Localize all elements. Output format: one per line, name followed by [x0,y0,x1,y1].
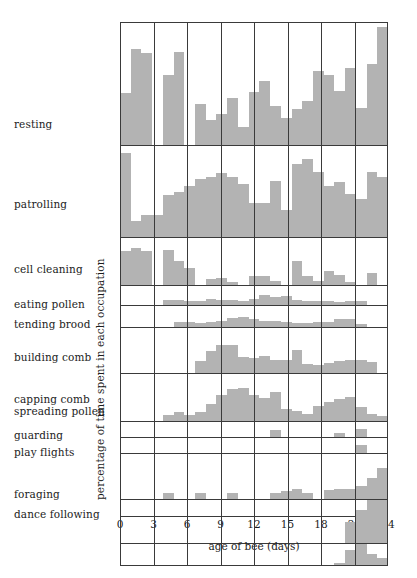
bar [302,364,313,373]
bar [184,186,195,237]
bar [281,118,292,145]
bar [174,412,185,421]
panel-play-flights [120,454,388,500]
bar [259,321,270,327]
bar [292,109,303,145]
bar [227,282,238,285]
bar [324,402,335,421]
bar [195,104,206,145]
bar [195,493,206,499]
bar [206,404,217,421]
bars-play-flights [120,454,388,499]
bar [206,322,217,327]
bar [238,388,249,421]
bar [377,27,388,145]
row-label-spreading-pollen: spreading pollen [0,406,96,417]
bar [206,351,217,374]
bars-capping-comb [120,374,388,421]
bar [259,203,270,237]
bar [206,120,217,145]
row-label-guarding: guarding [0,430,96,441]
bar [313,365,324,373]
bar [367,478,378,499]
bar [345,319,356,327]
bar [249,92,260,145]
bar [334,302,345,305]
bar [356,301,367,305]
panel-spreading-pollen [120,422,388,438]
bar [324,75,335,145]
bar [281,322,292,327]
bar [334,489,345,499]
bar [216,278,227,286]
bar [249,276,260,285]
row-label-cell-cleaning: cell cleaning [0,264,96,275]
bar [163,415,174,421]
bar [345,282,356,285]
bar [281,409,292,421]
bar [302,101,313,145]
y-axis-title: percentage of time spent in each occupat… [95,150,109,500]
bar [249,358,260,373]
bar [334,563,345,565]
bar [259,356,270,373]
bar [345,522,356,543]
bar [334,361,345,373]
bar [163,300,174,305]
bar [270,360,281,374]
bar [345,360,356,374]
bar [227,318,238,327]
bar [377,500,388,543]
bar [259,276,270,285]
bar [334,275,345,285]
bar [334,399,345,421]
bar [227,177,238,237]
bar [292,411,303,421]
bar [216,345,227,373]
row-label-dance-following: dance following [0,509,96,520]
bar [324,186,335,237]
row-label-resting: resting [0,119,96,130]
bar [227,345,238,373]
bar [292,300,303,305]
bar [313,301,324,305]
bar [259,398,270,421]
bar [195,361,206,373]
bar [270,392,281,421]
bar [270,106,281,145]
bar [292,350,303,373]
bar [334,182,345,237]
bar [238,184,249,237]
panel-stack [120,22,388,516]
bar [270,430,281,437]
bars-eating-pollen [120,286,388,305]
bar [302,276,313,285]
bar [120,251,131,285]
bar [313,406,324,421]
row-label-capping-comb: capping comb [0,394,96,405]
bar [249,319,260,327]
bar [270,281,281,285]
panel-tending-brood [120,306,388,328]
bar [216,173,227,237]
bar [184,268,195,285]
panel-cell-cleaning [120,238,388,286]
bar [377,558,388,565]
bar [302,493,313,499]
bee-occupation-histogram-figure: resting patrolling cell cleaning eating … [0,0,417,578]
panel-resting [120,22,388,146]
bar [120,153,131,237]
bar [292,323,303,327]
bar [270,321,281,327]
bar [270,493,281,499]
bar [184,301,195,305]
bar [356,429,367,437]
panel-patrolling [120,146,388,238]
bars-spreading-pollen [120,422,388,437]
panel-foraging [120,500,388,544]
bar [356,108,367,145]
bar [302,323,313,327]
bar [377,177,388,237]
bar [259,81,270,145]
bars-building-comb [120,328,388,373]
